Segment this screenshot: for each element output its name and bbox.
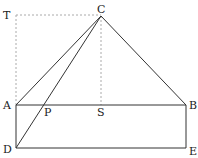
segment-AC xyxy=(16,16,101,105)
label-A: A xyxy=(2,99,12,112)
label-S: S xyxy=(97,106,105,119)
segment-DC xyxy=(16,16,101,148)
label-C: C xyxy=(97,3,105,16)
label-B: B xyxy=(189,99,197,112)
label-P: P xyxy=(44,106,52,119)
label-D: D xyxy=(3,143,12,156)
segment-BC xyxy=(101,16,186,105)
geometry-diagram: T C A P S B D E xyxy=(0,0,198,158)
label-E: E xyxy=(189,145,197,158)
label-T: T xyxy=(3,9,11,22)
